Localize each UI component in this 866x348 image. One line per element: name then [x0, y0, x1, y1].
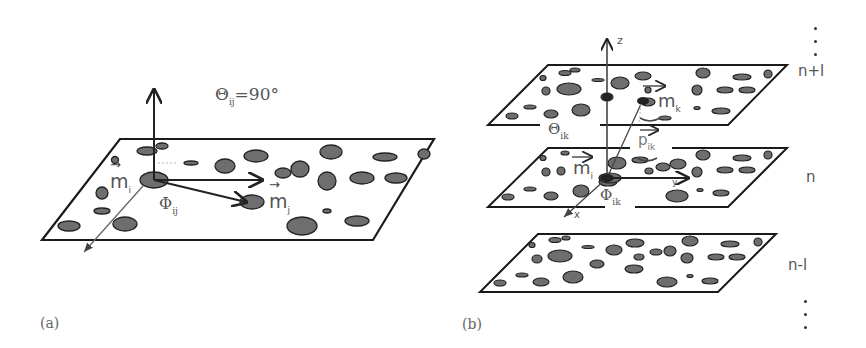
- phi-ik-label: Φik: [600, 186, 621, 207]
- ellipsis-bottom: [804, 300, 808, 339]
- theta-symbol: Θ: [548, 120, 560, 138]
- p-subscript: ik: [648, 142, 656, 152]
- m-i-subscript: i: [591, 171, 594, 181]
- phi-symbol: Φ: [159, 194, 172, 213]
- phi-subscript: ij: [172, 206, 178, 216]
- y-axis-label: y: [672, 177, 677, 187]
- p-symbol: p: [638, 131, 648, 149]
- p-ik-label: pik: [638, 131, 655, 152]
- m-i-subscript: i: [129, 185, 132, 195]
- x-axis-label: x: [574, 209, 580, 220]
- layer-label-n-plus-1: n+l: [798, 62, 824, 80]
- theta-symbol: Θ: [215, 84, 229, 104]
- layer-label-n-minus-1: n-l: [788, 256, 807, 274]
- phi-ij-label: Φij: [159, 194, 178, 216]
- theta-subscript: ik: [560, 131, 568, 141]
- m-j-symbol: m: [269, 190, 288, 212]
- panel-a-caption: (a): [40, 315, 59, 331]
- theta-ik-label: Θik: [548, 120, 569, 141]
- ellipsis-top: [814, 27, 818, 66]
- m-i-label: mi: [110, 170, 131, 195]
- m-k-label: mk: [658, 90, 681, 114]
- m-k-subscript: k: [676, 104, 681, 114]
- m-i-symbol: m: [110, 170, 129, 192]
- m-k-symbol: m: [658, 90, 676, 111]
- layer-label-n: n: [806, 168, 816, 186]
- z-axis-label: z: [617, 34, 623, 47]
- phi-subscript: ik: [612, 197, 620, 207]
- theta-value: =90°: [235, 84, 279, 104]
- m-i-symbol: m: [573, 157, 591, 178]
- theta-ij-label: Θij=90°: [215, 84, 279, 107]
- phi-symbol: Φ: [600, 186, 612, 204]
- panel-b-caption: (b): [462, 316, 482, 332]
- m-j-subscript: j: [288, 205, 291, 215]
- m-i-label-b: mi: [573, 157, 593, 181]
- m-j-label: mj: [269, 190, 290, 215]
